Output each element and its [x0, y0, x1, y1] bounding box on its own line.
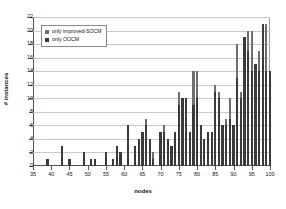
bar-segment-oocm — [178, 105, 180, 166]
bar-segment-oocm — [225, 125, 227, 166]
legend-label: only OOCM — [52, 37, 79, 42]
x-axis-tick — [69, 166, 70, 170]
bar-segment-oocm — [46, 159, 48, 166]
x-axis-tick-label: 65 — [132, 172, 152, 177]
bar-segment-oocm — [251, 71, 253, 166]
bar-segment-oocm — [145, 125, 147, 166]
x-axis-tick-label: 75 — [169, 172, 189, 177]
bar-segment-oocm — [207, 132, 209, 166]
bar-segment-oocm — [200, 125, 202, 166]
bar-segment-improved-socm — [265, 24, 267, 71]
y-axis-tick-label: 20 — [15, 28, 33, 33]
bar — [240, 92, 242, 167]
legend-label: only improved-SOCM — [52, 29, 102, 34]
x-axis-tick — [234, 166, 235, 170]
bar-segment-oocm — [232, 125, 234, 166]
bar-segment-oocm — [159, 132, 161, 166]
x-axis-tick — [215, 166, 216, 170]
bar — [105, 152, 107, 166]
bar-segment-oocm — [134, 146, 136, 166]
y-axis-tick-label: 22 — [15, 14, 33, 19]
bar-segment-improved-socm — [240, 92, 242, 99]
bar-segment-oocm — [211, 132, 213, 166]
bar-segment-oocm — [236, 78, 238, 166]
chart-legend: only improved-SOCM only OOCM — [41, 25, 107, 47]
bar-segment-oocm — [258, 71, 260, 166]
bar-segment-oocm — [167, 139, 169, 166]
bar — [265, 24, 267, 166]
y-axis-title: # instances — [3, 59, 9, 119]
bar-segment-improved-socm — [196, 71, 198, 98]
bar — [196, 71, 198, 166]
bar-segment-oocm — [221, 125, 223, 166]
bar — [134, 146, 136, 166]
y-axis-tick-label: 4 — [15, 136, 33, 141]
bar-segment-improved-socm — [236, 44, 238, 78]
bar — [207, 132, 209, 166]
x-axis-title: nodes — [0, 188, 286, 194]
bar — [243, 37, 245, 166]
bar-segment-oocm — [247, 51, 249, 166]
bar — [119, 152, 121, 166]
bar-segment-improved-socm — [145, 119, 147, 126]
x-axis-tick — [124, 166, 125, 170]
bar-segment-improved-socm — [152, 152, 154, 159]
bar — [170, 146, 172, 166]
bar-segment-oocm — [240, 98, 242, 166]
x-axis-tick-label: 35 — [23, 172, 43, 177]
y-axis-tick-label: 16 — [15, 55, 33, 60]
bar — [229, 98, 231, 166]
bar — [192, 71, 194, 166]
x-axis-tick — [161, 166, 162, 170]
bar — [251, 31, 253, 166]
bar-segment-oocm — [196, 98, 198, 166]
x-axis-tick — [252, 166, 253, 170]
bar-segment-oocm — [189, 132, 191, 166]
legend-item-oocm: only OOCM — [45, 36, 102, 44]
bar-segment-oocm — [218, 98, 220, 166]
y-axis-tick-label: 2 — [15, 150, 33, 155]
bar — [116, 146, 118, 166]
y-axis-tick-label: 10 — [15, 96, 33, 101]
bar-segment-oocm — [243, 37, 245, 166]
x-axis-tick-label: 60 — [114, 172, 134, 177]
bar — [211, 132, 213, 166]
bar-segment-oocm — [141, 132, 143, 166]
bar — [236, 44, 238, 166]
bar-segment-oocm — [174, 132, 176, 166]
x-axis-tick-label: 45 — [59, 172, 79, 177]
bar — [90, 159, 92, 166]
bar — [94, 159, 96, 166]
x-axis-tick — [88, 166, 89, 170]
bar — [127, 125, 129, 166]
x-axis-tick — [142, 166, 143, 170]
bar-segment-improved-socm — [251, 31, 253, 72]
bar — [232, 125, 234, 166]
x-axis-tick-label: 95 — [242, 172, 262, 177]
bar — [138, 139, 140, 166]
bar-segment-oocm — [229, 119, 231, 166]
y-axis-tick-label: 12 — [15, 82, 33, 87]
bar — [247, 31, 249, 166]
bar-segment-improved-socm — [163, 125, 165, 132]
bar-segment-oocm — [127, 125, 129, 166]
bar — [167, 139, 169, 166]
bar — [141, 132, 143, 166]
bar — [200, 125, 202, 166]
bar-segment-oocm — [90, 159, 92, 166]
x-axis-tick — [106, 166, 107, 170]
bar-segment-oocm — [269, 71, 271, 166]
x-axis-tick — [33, 166, 34, 170]
bar — [145, 119, 147, 166]
bar — [185, 98, 187, 166]
bar — [112, 159, 114, 166]
bar-segment-oocm — [214, 92, 216, 167]
bar — [189, 132, 191, 166]
bar — [174, 132, 176, 166]
bar — [61, 146, 63, 166]
bar — [262, 24, 264, 166]
bar — [181, 98, 183, 166]
bar — [152, 152, 154, 166]
bar — [225, 119, 227, 166]
bar-segment-improved-socm — [229, 98, 231, 118]
